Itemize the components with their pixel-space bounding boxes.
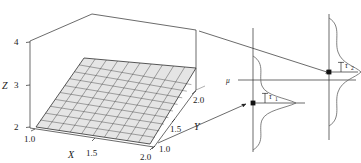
x-tick-2: 1.5 <box>86 148 98 158</box>
dist1-tau-bracket <box>262 93 268 103</box>
x-tick-1: 1.0 <box>24 134 36 144</box>
dist2-mean-point <box>327 70 332 75</box>
z-tick-4: 4 <box>14 37 19 47</box>
figure-svg: 4 3 2 Z <box>0 0 361 163</box>
y-tick-2: 1.5 <box>170 124 182 134</box>
z-tick-2: 2 <box>14 122 19 132</box>
y-tick-1: 1.0 <box>159 144 171 154</box>
tau1-label: τ <box>269 92 272 101</box>
tau1-subscript: 1 <box>275 96 278 102</box>
z-axis <box>26 42 30 128</box>
z-tick-3: 3 <box>14 80 19 90</box>
panel-3d-surface: 4 3 2 Z <box>2 14 205 162</box>
panel-distribution-far: τ 2 <box>327 14 361 140</box>
tau2-label: τ <box>345 61 348 70</box>
x-tick-3: 2.0 <box>140 152 152 162</box>
x-axis-label: X <box>67 149 75 160</box>
y-tick-3: 2.0 <box>193 95 205 105</box>
panel-distribution-near: τ 1 μ <box>226 28 356 152</box>
z-axis-label: Z <box>2 80 8 91</box>
figure-container: 4 3 2 Z <box>0 0 361 163</box>
mu-label: μ <box>226 76 230 85</box>
tau2-subscript: 2 <box>351 65 354 71</box>
dist2-tau-bracket <box>338 62 344 72</box>
dist1-mean-point <box>251 101 256 106</box>
